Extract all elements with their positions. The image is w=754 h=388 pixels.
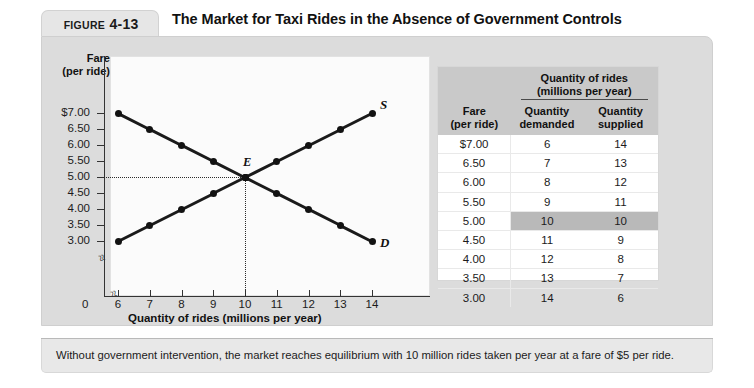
cell-quantity-demanded: 8 — [511, 173, 584, 192]
cell-fare: 4.50 — [438, 230, 511, 249]
y-tick-mark — [97, 161, 104, 162]
cell-fare: 6.50 — [438, 154, 511, 173]
y-tick-label: 6.50 — [28, 122, 90, 134]
table-row: 4.00128 — [438, 250, 658, 269]
equilibrium-guide-vertical — [245, 177, 246, 296]
figure-root: FIGURE 4-13 The Market for Taxi Rides in… — [0, 0, 754, 388]
header-quantity-group-line2: (millions per year) — [521, 85, 648, 98]
header-fare-line2: (per ride) — [441, 118, 508, 131]
supply-demand-table: Fare (per ride) Quantity of rides (milli… — [438, 67, 658, 307]
plot-area — [110, 56, 430, 296]
figure-tab-text: FIGURE 4-13 — [42, 11, 160, 37]
cell-quantity-demanded: 13 — [511, 269, 584, 288]
cell-quantity-demanded: 12 — [511, 250, 584, 269]
data-point-supply — [146, 222, 153, 229]
header-demanded-line1: Quantity — [514, 105, 581, 118]
data-point-demand — [305, 206, 312, 213]
x-tick-mark — [340, 290, 341, 296]
cell-quantity-demanded: 7 — [511, 154, 584, 173]
x-tick-label: 8 — [171, 298, 193, 310]
cell-fare: 3.50 — [438, 269, 511, 288]
y-axis-title-line2: (per ride) — [38, 65, 110, 78]
y-tick-label: 4.00 — [28, 202, 90, 214]
cell-quantity-demanded: 14 — [511, 288, 584, 307]
y-tick-mark — [97, 225, 104, 226]
x-tick-label: 6 — [107, 298, 129, 310]
header-demanded-line2: demanded — [514, 118, 581, 131]
x-tick-mark — [372, 290, 373, 296]
data-point-demand — [210, 158, 217, 165]
x-axis-title: Quantity of rides (millions per year) — [128, 312, 322, 324]
x-tick-label: 14 — [361, 298, 383, 310]
y-axis-title: Fare (per ride) — [38, 52, 110, 78]
table-head: Fare (per ride) Quantity of rides (milli… — [438, 67, 658, 135]
x-tick-mark — [150, 290, 151, 296]
cell-quantity-supplied: 8 — [583, 250, 658, 269]
header-supplied-line2: supplied — [586, 118, 655, 131]
cell-fare: 3.00 — [438, 288, 511, 307]
y-tick-mark — [97, 129, 104, 130]
cell-quantity-supplied: 10 — [583, 211, 658, 230]
table-row: 5.50911 — [438, 192, 658, 211]
cell-quantity-demanded: 6 — [511, 135, 584, 154]
cell-quantity-supplied: 9 — [583, 230, 658, 249]
cell-quantity-supplied: 13 — [583, 154, 658, 173]
caption-text: Without government intervention, the mar… — [56, 349, 674, 361]
y-tick-label: 6.00 — [28, 138, 90, 150]
header-quantity-group-inner: Quantity of rides (millions per year) — [521, 72, 648, 100]
data-point-demand — [337, 222, 344, 229]
equilibrium-guide-horizontal — [104, 177, 245, 178]
curve-label-s: S — [380, 97, 387, 113]
cell-fare: 5.50 — [438, 192, 511, 211]
equilibrium-point — [242, 174, 249, 181]
cell-quantity-supplied: 11 — [583, 192, 658, 211]
header-fare: Fare (per ride) — [438, 67, 511, 135]
y-tick-label: 3.00 — [28, 234, 90, 246]
x-tick-mark — [213, 290, 214, 296]
data-table-container: Fare (per ride) Quantity of rides (milli… — [437, 66, 659, 281]
header-quantity-group-line1: Quantity of rides — [521, 72, 648, 85]
cell-quantity-demanded: 10 — [511, 211, 584, 230]
y-tick-label: 4.50 — [28, 186, 90, 198]
x-tick-label: 7 — [139, 298, 161, 310]
x-tick-label: 9 — [202, 298, 224, 310]
data-point-supply — [305, 142, 312, 149]
header-supplied-line1: Quantity — [586, 105, 655, 118]
cell-fare: 6.00 — [438, 173, 511, 192]
curve-label-d: D — [380, 235, 389, 251]
table-body: $7.006146.507136.008125.509115.0010104.5… — [438, 135, 658, 307]
data-point-demand — [146, 126, 153, 133]
figure-number: 4-13 — [110, 16, 139, 32]
data-point-supply — [369, 110, 376, 117]
y-tick-mark — [97, 209, 104, 210]
table-row: 3.50137 — [438, 269, 658, 288]
y-tick-mark — [97, 145, 104, 146]
y-tick-mark — [97, 241, 104, 242]
y-tick-label: 5.50 — [28, 154, 90, 166]
x-tick-mark — [182, 290, 183, 296]
table-row: 6.00812 — [438, 173, 658, 192]
table-row: 5.001010 — [438, 211, 658, 230]
data-point-supply — [210, 190, 217, 197]
origin-label: 0 — [82, 298, 88, 310]
data-point-supply — [273, 158, 280, 165]
y-tick-mark — [97, 113, 104, 114]
cell-quantity-demanded: 9 — [511, 192, 584, 211]
y-axis-title-line1: Fare — [38, 52, 110, 65]
data-point-supply — [115, 238, 122, 245]
table-row: 3.00146 — [438, 288, 658, 307]
data-point-demand — [178, 142, 185, 149]
figure-title: The Market for Taxi Rides in the Absence… — [172, 11, 622, 27]
x-tick-label: 11 — [266, 298, 288, 310]
data-point-demand — [369, 238, 376, 245]
y-tick-label: $7.00 — [28, 106, 90, 118]
data-point-demand — [115, 110, 122, 117]
figure-number-tab: FIGURE 4-13 — [41, 10, 159, 36]
cell-quantity-supplied: 12 — [583, 173, 658, 192]
header-fare-line1: Fare — [441, 105, 508, 118]
data-point-supply — [178, 206, 185, 213]
equilibrium-label: E — [243, 155, 251, 170]
cell-fare: 4.00 — [438, 250, 511, 269]
cell-quantity-demanded: 11 — [511, 230, 584, 249]
header-quantity-supplied: Quantity supplied — [583, 102, 658, 135]
